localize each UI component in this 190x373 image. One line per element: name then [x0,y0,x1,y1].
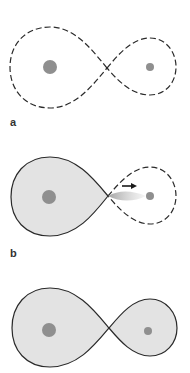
left-roche-lobe-filled [12,288,109,367]
right-roche-lobe-dashed [107,38,176,95]
primary-star [43,60,57,74]
panel-label-a: a [10,116,16,128]
right-roche-lobe-filled [109,299,177,356]
primary-star [42,323,56,337]
secondary-star [146,192,154,200]
secondary-star [146,63,154,71]
panel-label-b: b [10,247,17,259]
panel-c-contact [12,288,177,367]
primary-star [42,190,56,204]
panel-a-detached [10,27,176,108]
secondary-star [144,327,152,335]
arrow-icon [122,183,137,189]
mass-transfer-stream [108,192,146,201]
left-roche-lobe-filled [11,157,108,236]
panel-b-semidetached [11,157,176,236]
roche-lobe-diagram [0,0,190,373]
left-roche-lobe-dashed [10,27,107,108]
